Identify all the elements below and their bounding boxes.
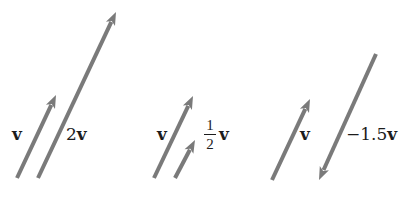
vector-diagram <box>0 0 406 204</box>
label-neg-1-5v-coefficient: −1.5 <box>346 124 387 144</box>
vector-arrow-shaft <box>272 109 305 180</box>
vector-arrow-shaft <box>17 105 51 178</box>
label-neg-1-5v: −1.5v <box>346 126 397 143</box>
label-v-group2: v <box>157 126 167 143</box>
label-2v-vector: v <box>77 124 87 144</box>
fraction-numerator: 1 <box>204 117 216 133</box>
vector-arrow-shaft <box>324 54 376 170</box>
arrows <box>17 12 376 180</box>
label-half-fraction: 1 2 <box>204 117 216 152</box>
vector-arrow-shaft <box>175 150 190 178</box>
label-neg-1-5v-vector: v <box>387 124 397 144</box>
label-half-v-vector: v <box>219 126 229 143</box>
label-v-group1: v <box>12 126 22 143</box>
vector-arrow-shaft <box>38 22 111 178</box>
label-2v: 2v <box>66 126 87 143</box>
fraction-bar <box>204 134 216 135</box>
label-2v-coefficient: 2 <box>66 124 77 144</box>
fraction-denominator: 2 <box>204 136 216 152</box>
label-v-group3: v <box>300 126 310 143</box>
